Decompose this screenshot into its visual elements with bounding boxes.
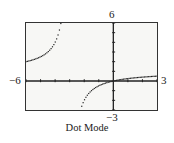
- plot-dot: [59, 29, 60, 30]
- xmin-label: −6: [9, 75, 21, 86]
- plot-dot: [53, 44, 54, 45]
- plot-dot: [140, 77, 141, 78]
- plot-dot: [110, 81, 111, 82]
- plot-dot: [101, 84, 102, 85]
- plot-dot: [49, 50, 50, 51]
- plot-dot: [129, 78, 130, 79]
- plot-dot: [144, 76, 145, 77]
- plot-dot: [45, 53, 46, 54]
- plot-dot: [81, 106, 82, 107]
- plot-dot: [87, 95, 88, 96]
- plot-dot: [52, 46, 53, 47]
- plot-dot: [137, 77, 138, 78]
- plot-dot: [38, 57, 39, 58]
- plot-dot: [48, 51, 49, 52]
- plot-dot: [28, 60, 29, 61]
- plot-dot: [50, 48, 51, 49]
- ymax-label: 6: [109, 9, 115, 20]
- plot-dot: [154, 76, 155, 77]
- plot-dot: [41, 56, 42, 57]
- plot-dot: [151, 76, 152, 77]
- plot-dot: [94, 88, 95, 89]
- plot-dot: [90, 91, 91, 92]
- plot-dots: [26, 23, 157, 107]
- plot-dot: [42, 55, 43, 56]
- plot-dot: [109, 81, 110, 82]
- plot-dot: [98, 85, 99, 86]
- plot-dot: [145, 76, 146, 77]
- plot-dot: [27, 61, 28, 62]
- plot-dot: [134, 77, 135, 78]
- plot-dot: [117, 79, 118, 80]
- plot-dot: [37, 58, 38, 59]
- plot-dot: [30, 60, 31, 61]
- plot-dot: [46, 52, 47, 53]
- plot-dot: [56, 38, 57, 39]
- plot-dot: [88, 93, 89, 94]
- graph-screen: [25, 22, 158, 111]
- plot-dot: [102, 84, 103, 85]
- plot-dot: [155, 76, 156, 77]
- plot-dot: [123, 79, 124, 80]
- xmax-label: 3: [161, 75, 167, 86]
- plot-dot: [133, 77, 134, 78]
- plot-dot: [99, 85, 100, 86]
- plot-dot: [55, 41, 56, 42]
- plot-dot: [122, 79, 123, 80]
- plot-dot: [113, 80, 114, 81]
- plot-dot: [116, 80, 117, 81]
- plot-dot: [142, 76, 143, 77]
- plot-dot: [26, 61, 27, 62]
- plot-dot: [44, 54, 45, 55]
- plot-dot: [103, 83, 104, 84]
- plot-dot: [84, 99, 85, 100]
- plot-dot: [106, 82, 107, 83]
- plot-dot: [152, 76, 153, 77]
- plot-dot: [95, 87, 96, 88]
- function-plot: [26, 23, 157, 110]
- plot-dot: [131, 78, 132, 79]
- plot-dot: [31, 60, 32, 61]
- caption: Dot Mode: [0, 122, 174, 133]
- plot-dot: [105, 83, 106, 84]
- plot-dot: [126, 78, 127, 79]
- plot-dot: [119, 79, 120, 80]
- plot-dot: [35, 58, 36, 59]
- plot-dot: [127, 78, 128, 79]
- plot-dot: [130, 78, 131, 79]
- plot-dot: [34, 59, 35, 60]
- plot-dot: [148, 76, 149, 77]
- plot-dot: [32, 59, 33, 60]
- plot-dot: [138, 77, 139, 78]
- plot-dot: [96, 86, 97, 87]
- plot-dot: [39, 57, 40, 58]
- plot-dot: [120, 79, 121, 80]
- plot-dot: [60, 23, 61, 24]
- plot-dot: [57, 34, 58, 35]
- plot-dot: [112, 81, 113, 82]
- axes: [26, 23, 157, 110]
- plot-dot: [141, 77, 142, 78]
- plot-dot: [108, 82, 109, 83]
- plot-dot: [124, 78, 125, 79]
- plot-dot: [156, 76, 157, 77]
- plot-dot: [83, 102, 84, 103]
- plot-dot: [149, 76, 150, 77]
- plot-dot: [91, 90, 92, 91]
- plot-dot: [85, 97, 86, 98]
- plot-dot: [92, 89, 93, 90]
- plot-dot: [147, 76, 148, 77]
- plot-dot: [115, 80, 116, 81]
- plot-dot: [135, 77, 136, 78]
